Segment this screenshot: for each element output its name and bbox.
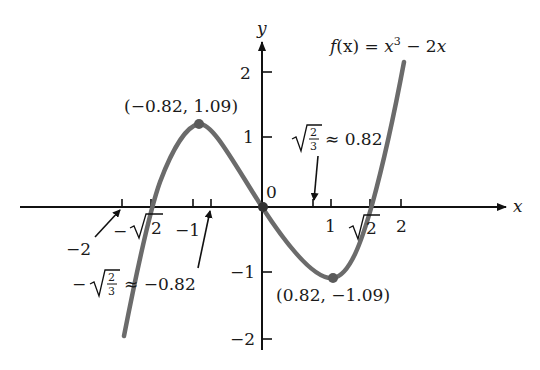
tick-label-neg-sqrt2: − 2: [113, 214, 163, 241]
tick-label-1: 1: [325, 216, 336, 236]
tick-label-2: 2: [396, 216, 407, 236]
x-axis-label: x: [513, 196, 523, 216]
svg-text:3: 3: [108, 285, 115, 298]
svg-text:2: 2: [366, 218, 377, 238]
arrow-to-pos082: [314, 156, 318, 200]
origin-label: 0: [266, 182, 277, 202]
svg-text:3: 3: [310, 140, 317, 153]
max-point-label: (−0.82, 1.09): [124, 96, 238, 116]
cubic-function-plot: y x 0 f(x) = x3 − 2x (−0.82, 1.09) (0.82…: [0, 0, 540, 370]
tick-label-neg1: −1: [175, 220, 200, 240]
svg-text:2: 2: [151, 218, 162, 238]
annotation-neg-sqrt-two-thirds: − 2 3 ≈ −0.82: [72, 270, 196, 298]
graph-figure: y x 0 f(x) = x3 − 2x (−0.82, 1.09) (0.82…: [0, 0, 540, 370]
local-min-point: [328, 273, 338, 283]
ytick-label-neg1: −1: [230, 262, 255, 282]
ytick-label-2: 2: [240, 63, 251, 83]
svg-text:−: −: [72, 274, 86, 294]
annotation-pos-sqrt-two-thirds: 2 3 ≈ 0.82: [292, 125, 383, 153]
svg-text:≈ 0.82: ≈ 0.82: [325, 129, 383, 149]
function-label: f(x) = x3 − 2x: [328, 35, 447, 56]
min-point-label: (0.82, −1.09): [276, 285, 390, 305]
tick-label-neg2: −2: [66, 239, 91, 259]
origin-point: [258, 202, 268, 212]
svg-text:−: −: [113, 221, 127, 241]
ytick-label-neg2: −2: [230, 329, 255, 349]
local-max-point: [194, 119, 204, 129]
svg-text:2: 2: [310, 126, 317, 139]
svg-text:2: 2: [108, 271, 115, 284]
y-axis-label: y: [256, 18, 267, 38]
ytick-label-1: 1: [243, 127, 254, 147]
svg-text:≈ −0.82: ≈ −0.82: [124, 274, 196, 294]
